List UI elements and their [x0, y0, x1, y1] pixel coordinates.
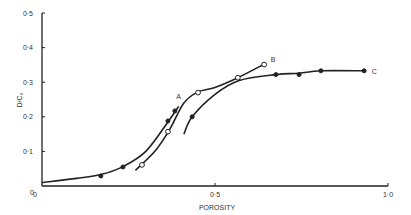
y-tick-label: 0·2	[23, 113, 33, 120]
filled-circle-marker	[274, 73, 278, 77]
x-ticks: 00·51·0	[33, 183, 393, 198]
filled-circle-marker	[99, 174, 103, 178]
axes	[42, 13, 388, 186]
x-tick-label: 0	[33, 191, 37, 198]
y-tick-label: 0·1	[23, 148, 33, 155]
porosity-chart: 00·10·20·30·40·5 00·51·0 POROSITY D/C₀ A…	[0, 0, 411, 215]
curve-b	[135, 64, 264, 170]
curve-label-b: B	[271, 56, 276, 63]
x-axis-label: POROSITY	[199, 204, 236, 211]
filled-circle-marker	[173, 109, 177, 113]
y-tick-label: 0·5	[23, 10, 33, 17]
curve-a	[42, 106, 179, 182]
open-circle-marker	[196, 90, 201, 95]
filled-circle-marker	[166, 119, 170, 123]
y-tick-label: 0·4	[23, 44, 33, 51]
y-tick-label: 0·3	[23, 79, 33, 86]
filled-circle-marker	[297, 73, 301, 77]
filled-circle-marker	[190, 115, 194, 119]
filled-circle-marker	[319, 69, 323, 73]
data-curves	[42, 64, 364, 182]
x-tick-label: 0·5	[210, 191, 220, 198]
x-tick-label: 1·0	[383, 191, 393, 198]
curve-label-a: A	[176, 93, 181, 100]
filled-circle-marker	[121, 165, 125, 169]
filled-circle-marker	[362, 69, 366, 73]
open-circle-marker	[166, 129, 171, 134]
y-axis-label: D/C₀	[16, 92, 23, 107]
open-circle-marker	[235, 75, 240, 80]
open-circle-marker	[140, 162, 145, 167]
curve-label-c: C	[372, 68, 377, 75]
curve-c	[184, 71, 364, 134]
open-circle-marker	[262, 62, 267, 67]
curve-labels: ABC	[176, 56, 376, 99]
